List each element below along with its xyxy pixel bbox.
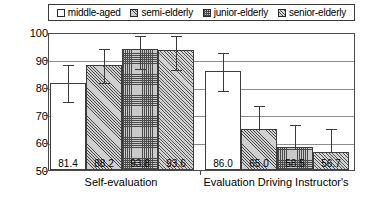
plot-area: 81.488.293.893.686.065.058.556.7 (48, 33, 355, 171)
legend-label: semi-elderly (141, 8, 193, 18)
legend-label: senior-elderly (289, 8, 346, 18)
chart-legend: middle-aged semi-elderly junior-elderly … (48, 4, 355, 21)
error-bar (104, 49, 105, 84)
bar-value-label: 56.7 (313, 158, 349, 169)
bar-value-label: 81.4 (50, 158, 86, 169)
error-bar (331, 129, 332, 154)
error-bar-cap (135, 69, 146, 70)
legend-item-middle-aged: middle-aged (57, 8, 121, 18)
error-bar-cap (63, 102, 74, 103)
error-bar (176, 36, 177, 69)
legend-swatch-grid-icon (203, 9, 211, 17)
error-bar (295, 125, 296, 148)
legend-item-junior-elderly: junior-elderly (203, 8, 268, 18)
error-bar-cap (171, 36, 182, 37)
legend-item-senior-elderly: senior-elderly (278, 8, 346, 18)
bar-value-label: 88.2 (86, 158, 122, 169)
error-bar-cap (63, 65, 74, 66)
bar-value-label: 93.8 (122, 158, 158, 169)
chart-root: middle-aged semi-elderly junior-elderly … (0, 0, 369, 201)
error-bar (68, 65, 69, 102)
y-axis: 1009080706050 (0, 33, 48, 171)
error-bar-cap (171, 70, 182, 71)
x-axis-group-label: Evaluation Driving Instructor's (166, 176, 369, 188)
x-axis-tick-mark (200, 171, 201, 175)
error-bar-cap (135, 36, 146, 37)
error-bar-cap (99, 49, 110, 50)
bar-value-label: 65.0 (241, 158, 277, 169)
error-bar-cap (218, 53, 229, 54)
error-bar (140, 36, 141, 69)
legend-swatch-diagonal2-icon (278, 9, 286, 17)
error-bar-cap (254, 106, 265, 107)
error-bar (223, 53, 224, 90)
legend-label: junior-elderly (214, 8, 268, 18)
gridline (49, 61, 354, 62)
y-axis-tick-label: 60 (22, 138, 48, 149)
error-bar-cap (218, 91, 229, 92)
legend-label: middle-aged (68, 8, 121, 18)
error-bar-cap (326, 129, 337, 130)
legend-item-semi-elderly: semi-elderly (130, 8, 193, 18)
y-axis-tick-label: 80 (22, 83, 48, 94)
error-bar-cap (99, 83, 110, 84)
y-axis-tick-label: 100 (22, 28, 48, 39)
y-axis-tick-label: 90 (22, 56, 48, 67)
bar-value-label: 86.0 (205, 158, 241, 169)
y-axis-tick-label: 70 (22, 111, 48, 122)
legend-swatch-diagonal-icon (130, 9, 138, 17)
legend-swatch-plain-icon (57, 9, 65, 17)
error-bar-cap (290, 125, 301, 126)
error-bar (259, 106, 260, 131)
bar-value-label: 58.5 (277, 158, 313, 169)
bar-value-label: 93.6 (158, 158, 194, 169)
